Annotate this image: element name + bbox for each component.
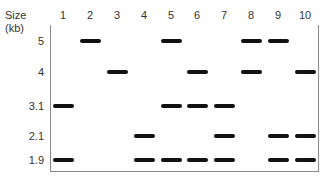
band-lane10-1-9kb xyxy=(295,158,316,162)
lane-label-3: 3 xyxy=(107,9,127,21)
gel-frame xyxy=(50,25,319,172)
band-lane7-3-1kb xyxy=(214,104,235,108)
band-lane7-2-1kb xyxy=(214,134,235,138)
lane-label-1: 1 xyxy=(53,9,73,21)
band-lane6-4kb xyxy=(187,70,208,74)
size-label-4kb: 4 xyxy=(38,66,44,78)
lane-label-9: 9 xyxy=(268,9,288,21)
band-lane8-4kb xyxy=(241,70,262,74)
band-lane10-4kb xyxy=(295,70,316,74)
band-lane2-5kb xyxy=(80,39,101,43)
size-label-5kb: 5 xyxy=(38,35,44,47)
band-lane5-3-1kb xyxy=(161,104,182,108)
band-lane5-1-9kb xyxy=(161,158,182,162)
band-lane1-1-9kb xyxy=(53,158,74,162)
band-lane1-3-1kb xyxy=(53,104,74,108)
band-lane6-3-1kb xyxy=(187,104,208,108)
size-label-2-1kb: 2.1 xyxy=(29,130,44,142)
size-unit-label: (kb) xyxy=(5,22,24,34)
lane-label-7: 7 xyxy=(214,9,234,21)
size-label-3-1kb: 3.1 xyxy=(29,100,44,112)
size-label-1-9kb: 1.9 xyxy=(29,154,44,166)
band-lane7-1-9kb xyxy=(214,158,235,162)
lane-label-8: 8 xyxy=(241,9,261,21)
band-lane3-4kb xyxy=(107,70,128,74)
size-axis-label: Size xyxy=(5,9,26,21)
lane-label-4: 4 xyxy=(134,9,154,21)
band-lane10-2-1kb xyxy=(295,134,316,138)
band-lane8-5kb xyxy=(241,39,262,43)
band-lane5-5kb xyxy=(161,39,182,43)
band-lane9-5kb xyxy=(268,39,289,43)
lane-label-5: 5 xyxy=(161,9,181,21)
lane-label-2: 2 xyxy=(80,9,100,21)
lane-label-6: 6 xyxy=(187,9,207,21)
band-lane4-2-1kb xyxy=(134,134,155,138)
band-lane4-1-9kb xyxy=(134,158,155,162)
band-lane9-2-1kb xyxy=(268,134,289,138)
lane-label-10: 10 xyxy=(295,9,315,21)
band-lane9-1-9kb xyxy=(268,158,289,162)
band-lane6-1-9kb xyxy=(187,158,208,162)
